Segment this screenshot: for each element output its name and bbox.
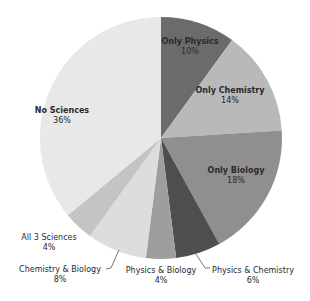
slice-label-name: No Sciences	[35, 106, 89, 116]
slice-label-percent: 18%	[208, 176, 265, 186]
slice-label: All 3 Sciences4%	[21, 233, 76, 253]
slice-label-percent: 4%	[21, 243, 76, 253]
slice-label-percent: 4%	[126, 276, 196, 286]
slice-label-name: Physics & Biology	[126, 266, 196, 276]
slice-label: Physics & Biology4%	[126, 266, 196, 286]
slice-label-name: Only Chemistry	[195, 86, 264, 96]
slice-label-percent: 14%	[195, 96, 264, 106]
slice-label: Chemistry & Biology8%	[19, 265, 101, 285]
slice-label: Only Biology18%	[208, 166, 265, 186]
slice-label: Physics & Chemistry6%	[212, 266, 294, 286]
slice-label: Only Chemistry14%	[195, 86, 264, 106]
slice-label-name: Only Biology	[208, 166, 265, 176]
slice-label-name: All 3 Sciences	[21, 233, 76, 243]
slice-label: No Sciences36%	[35, 106, 89, 126]
slice-label-name: Physics & Chemistry	[212, 266, 294, 276]
slice-label-percent: 36%	[35, 116, 89, 126]
slice-label: Only Physics10%	[161, 37, 218, 57]
slice-label-percent: 8%	[19, 275, 101, 285]
leader-line	[196, 254, 210, 268]
slice-label-percent: 10%	[161, 47, 218, 57]
leader-line	[106, 250, 119, 269]
slice-label-name: Chemistry & Biology	[19, 265, 101, 275]
slice-label-name: Only Physics	[161, 37, 218, 47]
slice-label-percent: 6%	[212, 276, 294, 286]
pie-chart	[0, 0, 310, 301]
